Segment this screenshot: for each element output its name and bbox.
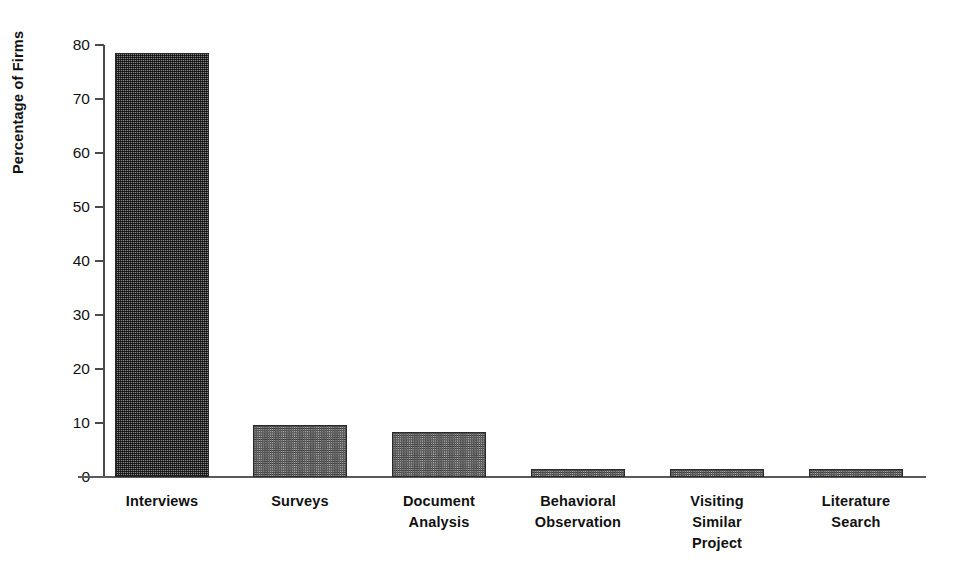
- x-label-visiting-similar-project: Visiting Similar Project: [657, 491, 777, 554]
- x-label-interviews: Interviews: [102, 491, 222, 512]
- bar-interviews: [115, 53, 209, 477]
- x-label-line: Similar: [657, 512, 777, 533]
- bar-document-analysis: [392, 432, 486, 477]
- x-label-line: Literature: [796, 491, 916, 512]
- x-label-line: Visiting: [657, 491, 777, 512]
- x-label-line: Document: [379, 491, 499, 512]
- x-label-line: Search: [796, 512, 916, 533]
- x-label-line: Observation: [518, 512, 638, 533]
- bar-surveys: [253, 425, 347, 477]
- x-label-line: Interviews: [102, 491, 222, 512]
- x-label-line: Analysis: [379, 512, 499, 533]
- bar-chart: Percentage of Firms 80 70 60 50 40 30 20…: [0, 0, 959, 585]
- x-label-document-analysis: Document Analysis: [379, 491, 499, 533]
- x-label-behavioral-observation: Behavioral Observation: [518, 491, 638, 533]
- x-label-surveys: Surveys: [240, 491, 360, 512]
- x-label-literature-search: Literature Search: [796, 491, 916, 533]
- plot-area: [0, 0, 959, 477]
- x-label-line: Behavioral: [518, 491, 638, 512]
- bar-literature-search: [809, 469, 903, 477]
- bar-visiting-similar-project: [670, 469, 764, 477]
- x-label-line: Surveys: [240, 491, 360, 512]
- x-label-line: Project: [657, 533, 777, 554]
- bar-behavioral-observation: [531, 469, 625, 477]
